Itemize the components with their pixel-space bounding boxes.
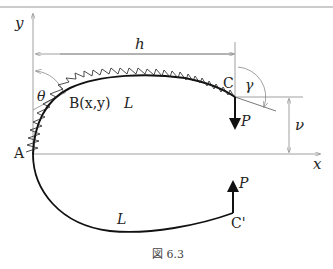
gamma-label: γ: [245, 78, 253, 92]
c-tangent-line: [235, 97, 276, 111]
point-c-label: C: [223, 76, 234, 90]
nu-label: ν: [295, 118, 304, 133]
lower-length-label: L: [117, 212, 126, 226]
theta-label: θ: [37, 89, 45, 103]
x-axis-label: x: [313, 157, 321, 172]
h-label: h: [135, 37, 145, 52]
point-c-prime-label: C': [231, 216, 246, 230]
upper-force-label: P: [241, 114, 250, 128]
figure-caption: 図 6.3: [152, 249, 184, 260]
beam-deflection-diagram: [0, 0, 333, 269]
deflected-beam-curve: [33, 75, 235, 154]
upper-length-label: L: [124, 96, 133, 110]
lower-beam-curve: [33, 154, 233, 232]
lower-force-label: P: [239, 176, 248, 190]
point-b-label: B(x,y): [69, 96, 110, 110]
y-axis-label: y: [15, 16, 23, 31]
point-a-label: A: [14, 146, 24, 160]
